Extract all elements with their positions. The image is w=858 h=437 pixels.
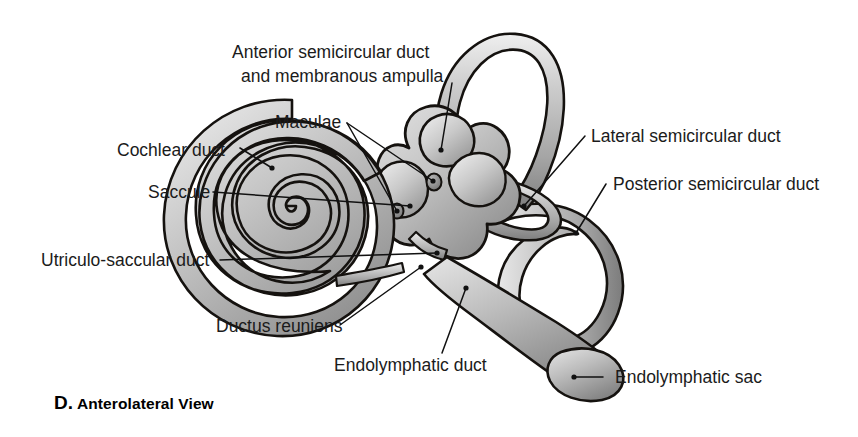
label-utriculo-saccular-duct: Utriculo-saccular duct	[41, 250, 209, 270]
vestibule-upper-lobe	[449, 153, 506, 206]
label-saccule: Saccule	[148, 182, 210, 202]
label-endolymphatic-sac: Endolymphatic sac	[615, 367, 762, 387]
label-cochlear-duct: Cochlear duct	[117, 140, 225, 160]
label-lateral-semicircular-duct: Lateral semicircular duct	[591, 126, 781, 146]
membranous-labyrinth-diagram: Anterior semicircular duct and membranou…	[0, 0, 858, 437]
label-endolymphatic-duct: Endolymphatic duct	[334, 355, 487, 375]
label-maculae: Maculae	[275, 112, 341, 132]
caption-title: Anterolateral View	[77, 395, 215, 412]
figure-caption: D. Anterolateral View	[54, 392, 215, 413]
label-ductus-reuniens: Ductus reuniens	[216, 316, 343, 336]
caption-letter: D.	[54, 392, 73, 413]
label-posterior-semicircular-duct: Posterior semicircular duct	[613, 174, 819, 194]
label-anterior-semicircular-duct-line1: Anterior semicircular duct	[232, 42, 430, 62]
label-anterior-semicircular-duct-line2: and membranous ampulla	[241, 66, 444, 86]
